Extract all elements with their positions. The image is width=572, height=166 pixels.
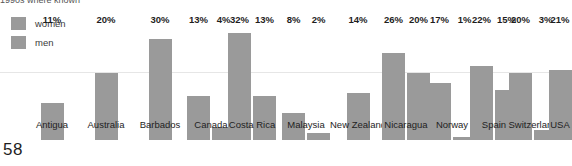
category-label: USA <box>550 114 570 130</box>
bar-group: 8%2%Malaysia <box>280 0 332 140</box>
bar-group: 30%Barbados <box>134 0 186 140</box>
category-label: Barbados <box>140 114 181 130</box>
bar-rect <box>428 83 451 140</box>
bar-value-label: 14% <box>348 14 367 25</box>
bar-rect <box>307 133 330 140</box>
page-number: 58 <box>3 140 23 160</box>
category-label: New Zealand <box>330 114 386 130</box>
category-label: Spain <box>482 114 506 130</box>
bar-value-label: 13% <box>255 14 274 25</box>
bar-value-label: 21% <box>550 14 569 25</box>
bar-value-label: 13% <box>189 14 208 25</box>
category-label: Nicaragua <box>384 114 427 130</box>
bar-value-label: 22% <box>472 14 491 25</box>
bar-group: 20%Australia <box>80 0 132 140</box>
bar-value-label: 8% <box>287 14 301 25</box>
bar-value-label: 20% <box>511 14 530 25</box>
category-label: Antigua <box>36 114 68 130</box>
bar-group: 11%Antigua <box>26 0 78 140</box>
bar-value-label: 32% <box>230 14 249 25</box>
bar-group: 14%New Zealand <box>332 0 384 140</box>
bar-value-label: 20% <box>96 14 115 25</box>
bar-value-label: 11% <box>43 14 62 25</box>
category-label: Canada <box>194 114 227 130</box>
bar-value-label: 17% <box>430 14 449 25</box>
category-label: Norway <box>436 114 468 130</box>
bar-group: 32%13%Costa Rica <box>226 0 278 140</box>
category-label: Australia <box>88 114 125 130</box>
bar-value-label: 26% <box>384 14 403 25</box>
bar-group: 26%20%Nicaragua <box>380 0 432 140</box>
bar-group: 21%USA <box>534 0 572 140</box>
bar-value-label: 2% <box>312 14 326 25</box>
bar-value-label: 30% <box>150 14 169 25</box>
category-label: Malaysia <box>287 114 325 130</box>
bar-chart-plot: 11%Antigua20%Australia30%Barbados13%4%Ca… <box>0 0 572 166</box>
category-label: Costa Rica <box>229 114 275 130</box>
